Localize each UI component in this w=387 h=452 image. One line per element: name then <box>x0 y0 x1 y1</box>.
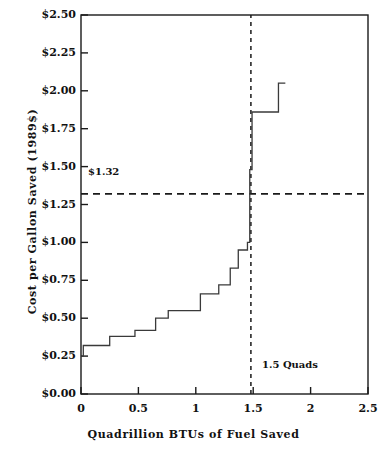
y-tick-label: $0.75 <box>12 273 76 286</box>
y-tick-label: $1.25 <box>12 198 76 211</box>
quads-annotation-label: 1.5 Quads <box>262 359 318 370</box>
y-tick-label: $2.50 <box>12 8 76 21</box>
y-tick-label: $1.75 <box>12 122 76 135</box>
y-tick-label: $2.00 <box>12 84 76 97</box>
y-axis-ticks <box>81 15 88 394</box>
y-tick-label: $0.50 <box>12 311 76 324</box>
x-axis-title: Quadrillion BTUs of Fuel Saved <box>0 428 387 441</box>
step-chart-plot <box>0 0 387 452</box>
x-tick-label: 1 <box>176 402 216 415</box>
y-axis-title: Cost per Gallon Saved (1989$) <box>26 92 39 332</box>
y-tick-label: $0.00 <box>12 387 76 400</box>
x-tick-label: 0 <box>61 402 101 415</box>
y-tick-label: $1.00 <box>12 235 76 248</box>
x-tick-label: 2 <box>291 402 331 415</box>
x-tick-label: 2.5 <box>348 402 387 415</box>
y-tick-label: $0.25 <box>12 349 76 362</box>
supply-step-curve <box>81 83 285 356</box>
x-tick-label: 0.5 <box>118 402 158 415</box>
x-tick-label: 1.5 <box>233 402 273 415</box>
threshold-annotation-label: $1.32 <box>88 166 119 177</box>
chart-container: $0.00$0.25$0.50$0.75$1.00$1.25$1.50$1.75… <box>0 0 387 452</box>
x-axis-ticks <box>81 387 368 394</box>
y-tick-label: $2.25 <box>12 46 76 59</box>
plot-frame <box>81 15 368 394</box>
y-tick-label: $1.50 <box>12 160 76 173</box>
